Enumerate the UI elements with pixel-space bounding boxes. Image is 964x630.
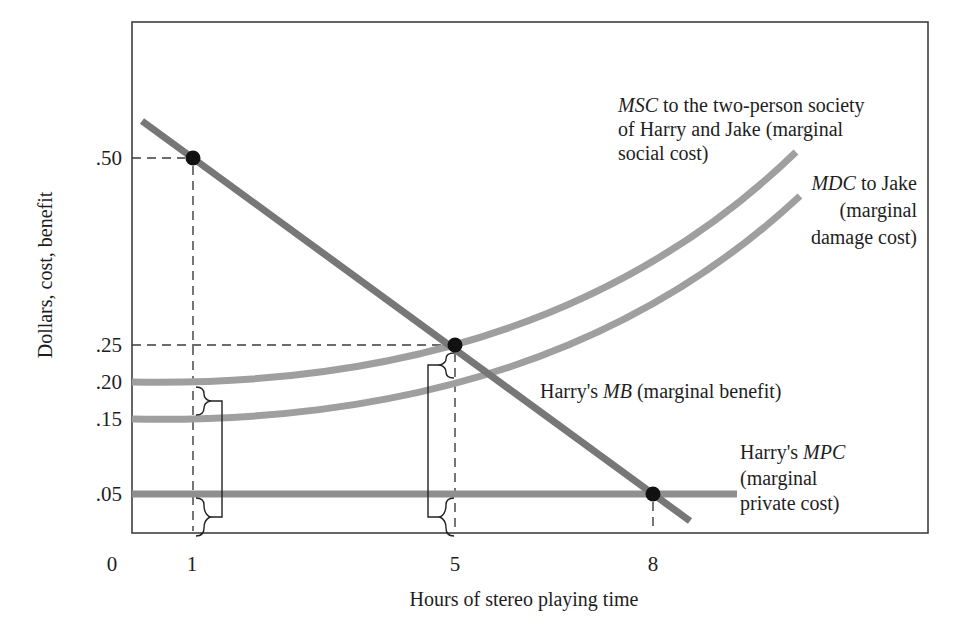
msc-label-line1: to the two-person society	[658, 94, 865, 117]
point-1hr-050	[186, 151, 201, 166]
msc-label-line3: social cost)	[618, 142, 709, 165]
mdc-label: MDC to Jake (marginal damage cost)	[810, 172, 917, 249]
mb-label: Harry's MB (marginal benefit)	[540, 380, 782, 403]
mdc-label-line1: to Jake	[856, 172, 917, 194]
mb-label-post: (marginal benefit)	[632, 380, 782, 403]
mdc-label-line2: (marginal	[840, 199, 918, 222]
svg-text:MSC to the two-person society: MSC to the two-person society	[617, 94, 865, 117]
msc-label-var: MSC	[617, 94, 659, 116]
x-tick-5: 5	[450, 552, 461, 576]
y-tick-050: .50	[96, 146, 122, 170]
mb-line	[142, 121, 690, 521]
mdc-label-line3: damage cost)	[811, 226, 917, 249]
mdc-label-var: MDC	[810, 172, 856, 194]
mb-label-pre: Harry's	[540, 380, 603, 403]
point-5hr-025	[448, 338, 463, 353]
x-tick-8: 8	[648, 552, 659, 576]
mpc-label-var: MPC	[802, 441, 846, 463]
mpc-label-line2: (marginal	[740, 467, 818, 490]
y-tick-005: .05	[96, 482, 122, 506]
mb-label-var: MB	[602, 380, 632, 402]
svg-text:Harry's MPC: Harry's MPC	[740, 441, 846, 464]
x-tick-1: 1	[187, 552, 198, 576]
svg-text:MDC to Jake: MDC to Jake	[810, 172, 917, 194]
brace-mpc-height-x5	[440, 498, 454, 536]
y-tick-025: .25	[96, 333, 122, 357]
brace-msc-mdc-gap-x5	[440, 353, 454, 378]
y-tick-020: .20	[96, 370, 122, 394]
msc-label-line2: of Harry and Jake (marginal	[618, 118, 844, 141]
mpc-label-line3: private cost)	[740, 492, 839, 515]
point-8hr-005	[646, 487, 661, 502]
x-axis-title: Hours of stereo playing time	[410, 588, 639, 611]
mpc-label: Harry's MPC (marginal private cost)	[740, 441, 846, 515]
chart-canvas: .50 .25 .20 .15 .05 0 1 5 8 Hours of ste…	[0, 0, 964, 630]
mpc-label-pre: Harry's	[740, 441, 803, 464]
msc-label: MSC to the two-person society of Harry a…	[617, 94, 865, 165]
y-tick-015: .15	[96, 407, 122, 431]
x-tick-0: 0	[107, 552, 118, 576]
y-axis-title: Dollars, cost, benefit	[34, 191, 56, 358]
externality-cost-benefit-figure: .50 .25 .20 .15 .05 0 1 5 8 Hours of ste…	[0, 0, 964, 630]
brace-msc-mdc-gap-x1	[196, 387, 210, 415]
brace-mpc-height-x1	[196, 498, 210, 536]
